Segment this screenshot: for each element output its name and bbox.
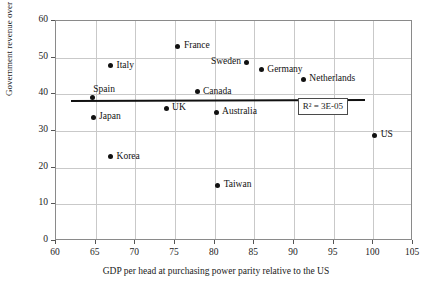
x-tick-mark (412, 240, 413, 244)
data-point (215, 183, 220, 188)
gridline-horizontal (56, 204, 411, 205)
y-tick-mark (51, 20, 55, 21)
data-point-label: Italy (117, 61, 134, 71)
y-tick-mark (51, 57, 55, 58)
x-tick-mark (174, 240, 175, 244)
data-point-label: Germany (267, 65, 302, 75)
y-tick-label: 10 (22, 198, 48, 208)
x-tick-label: 105 (397, 248, 427, 258)
y-tick-mark (51, 93, 55, 94)
y-axis-title: Government revenue over GDP (4, 0, 14, 96)
data-point (259, 67, 264, 72)
gridline-vertical (135, 21, 136, 239)
x-tick-mark (253, 240, 254, 244)
x-tick-mark (214, 240, 215, 244)
data-point (372, 133, 377, 138)
data-point-label: UK (172, 103, 186, 113)
data-point-label: Sweden (211, 57, 241, 67)
y-tick-mark (51, 240, 55, 241)
x-tick-label: 85 (238, 248, 268, 258)
data-point-label: Taiwan (224, 180, 252, 190)
y-tick-label: 60 (22, 15, 48, 25)
gridline-horizontal (56, 168, 411, 169)
data-point (301, 77, 306, 82)
x-tick-label: 70 (119, 248, 149, 258)
y-tick-mark (51, 203, 55, 204)
gridline-vertical (96, 21, 97, 239)
x-tick-mark (333, 240, 334, 244)
data-point (91, 115, 96, 120)
gridline-vertical (334, 21, 335, 239)
y-tick-label: 0 (22, 235, 48, 245)
data-point-label: US (381, 130, 393, 140)
scatter-chart: 60657075808590951001050102030405060 Spai… (0, 0, 432, 291)
y-tick-label: 40 (22, 88, 48, 98)
gridline-vertical (254, 21, 255, 239)
data-point-label: Japan (99, 112, 121, 122)
x-tick-label: 100 (357, 248, 387, 258)
x-tick-label: 95 (318, 248, 348, 258)
x-tick-label: 90 (278, 248, 308, 258)
data-point-label: Netherlands (309, 74, 355, 84)
data-point-label: Korea (117, 152, 140, 162)
r-squared-annotation: R² = 3E-05 (298, 98, 348, 115)
data-point (214, 110, 219, 115)
y-tick-mark (51, 130, 55, 131)
y-tick-mark (51, 167, 55, 168)
y-tick-label: 50 (22, 52, 48, 62)
data-point (195, 89, 200, 94)
gridline-vertical (215, 21, 216, 239)
gridline-vertical (175, 21, 176, 239)
x-tick-mark (293, 240, 294, 244)
x-tick-mark (372, 240, 373, 244)
x-tick-label: 65 (80, 248, 110, 258)
x-tick-mark (134, 240, 135, 244)
data-point-label: Spain (93, 85, 115, 95)
y-tick-label: 30 (22, 125, 48, 135)
y-tick-label: 20 (22, 162, 48, 172)
x-tick-mark (95, 240, 96, 244)
data-point-label: Canada (203, 87, 232, 97)
x-tick-label: 75 (159, 248, 189, 258)
gridline-horizontal (56, 94, 411, 95)
gridline-horizontal (56, 131, 411, 132)
x-tick-label: 60 (40, 248, 70, 258)
data-point-label: France (184, 41, 210, 51)
x-axis-title: GDP per head at purchasing power parity … (0, 266, 432, 276)
x-tick-label: 80 (199, 248, 229, 258)
data-point-label: Australia (222, 107, 257, 117)
data-point (164, 106, 169, 111)
gridline-vertical (373, 21, 374, 239)
x-tick-mark (55, 240, 56, 244)
gridline-vertical (294, 21, 295, 239)
plot-area (55, 20, 412, 240)
